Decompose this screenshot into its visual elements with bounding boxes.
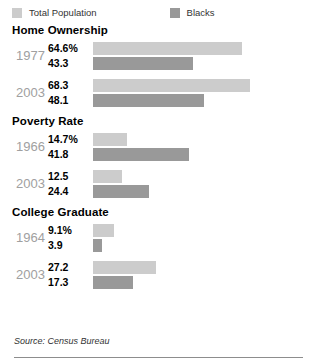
legend-label-total-population: Total Population [29, 7, 97, 18]
group-rows: 14.7%41.8 [0, 132, 317, 162]
bar-row: 9.1% [0, 223, 317, 238]
chart-group: 200312.524.4 [0, 169, 317, 199]
bar-row: 12.5 [0, 169, 317, 184]
bar-row: 27.2 [0, 260, 317, 275]
chart-group: 200368.348.1 [0, 78, 317, 108]
chart-group: 197764.6%43.3 [0, 41, 317, 71]
chart-group: 19649.1%3.9 [0, 223, 317, 253]
bar-value-label: 17.3 [48, 275, 68, 290]
section-title: College Graduate [12, 206, 317, 218]
bar-value-label: 48.1 [48, 93, 68, 108]
bar-row: 14.7% [0, 132, 317, 147]
chart-section: College Graduate19649.1%3.9200327.217.3 [0, 206, 317, 290]
legend-swatch-blacks [170, 8, 180, 18]
legend-swatch-total-population [12, 8, 22, 18]
bar-value-label: 68.3 [48, 78, 68, 93]
bar-blacks [93, 57, 193, 70]
source-note: Source: Census Bureau [14, 336, 110, 346]
bar-blacks [93, 94, 204, 107]
chart-group: 200327.217.3 [0, 260, 317, 290]
bar-row: 24.4 [0, 184, 317, 199]
bar-value-label: 24.4 [48, 184, 68, 199]
bar-blacks [93, 148, 189, 161]
bar-total-population [93, 79, 250, 92]
bar-value-label: 9.1% [48, 223, 72, 238]
footer-divider [14, 357, 303, 358]
bar-value-label: 14.7% [48, 132, 78, 147]
bar-value-label: 64.6% [48, 41, 78, 56]
bar-blacks [93, 276, 133, 289]
bar-row: 41.8 [0, 147, 317, 162]
bar-value-label: 43.3 [48, 56, 68, 71]
bar-row: 3.9 [0, 238, 317, 253]
bar-total-population [93, 224, 114, 237]
chart-section: Poverty Rate196614.7%41.8200312.524.4 [0, 115, 317, 199]
bar-total-population [93, 170, 122, 183]
bar-value-label: 27.2 [48, 260, 68, 275]
bar-value-label: 3.9 [48, 238, 63, 253]
group-rows: 12.524.4 [0, 169, 317, 199]
bar-row: 43.3 [0, 56, 317, 71]
bar-row: 68.3 [0, 78, 317, 93]
bar-blacks [93, 239, 102, 252]
legend-item-total-population: Total Population [12, 7, 97, 18]
bar-row: 17.3 [0, 275, 317, 290]
bar-row: 64.6% [0, 41, 317, 56]
bar-value-label: 41.8 [48, 147, 68, 162]
bar-total-population [93, 42, 242, 55]
legend-item-blacks: Blacks [170, 7, 215, 18]
chart-legend: Total Population Blacks [12, 7, 215, 18]
section-title: Poverty Rate [12, 115, 317, 127]
group-rows: 9.1%3.9 [0, 223, 317, 253]
bar-total-population [93, 261, 156, 274]
section-title: Home Ownership [12, 24, 317, 36]
group-rows: 64.6%43.3 [0, 41, 317, 71]
chart-section: Home Ownership197764.6%43.3200368.348.1 [0, 24, 317, 108]
chart-group: 196614.7%41.8 [0, 132, 317, 162]
bar-row: 48.1 [0, 93, 317, 108]
legend-label-blacks: Blacks [187, 7, 215, 18]
group-rows: 68.348.1 [0, 78, 317, 108]
bar-total-population [93, 133, 127, 146]
chart-sections: Home Ownership197764.6%43.3200368.348.1P… [0, 24, 317, 297]
bar-value-label: 12.5 [48, 169, 68, 184]
bar-blacks [93, 185, 149, 198]
group-rows: 27.217.3 [0, 260, 317, 290]
